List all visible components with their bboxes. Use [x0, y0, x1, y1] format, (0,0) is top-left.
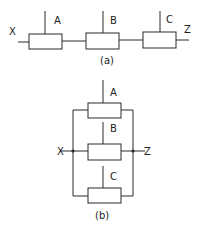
junction-x: [71, 149, 74, 152]
component-a-box: [88, 103, 121, 118]
input-label-x: X: [57, 146, 64, 157]
component-c-box: [88, 188, 121, 203]
component-b-label: B: [110, 123, 117, 134]
caption-a: (a): [100, 55, 114, 66]
caption-b: (b): [95, 210, 109, 221]
component-c-label: C: [166, 14, 173, 25]
component-b-label: B: [110, 15, 117, 26]
output-label-z: Z: [144, 146, 151, 157]
input-label-x: X: [9, 26, 16, 37]
component-c-box: [143, 32, 176, 48]
component-a-label: A: [54, 15, 61, 26]
junction-z: [131, 149, 134, 152]
component-b-box: [88, 144, 121, 160]
component-a-label: A: [110, 87, 117, 98]
component-c-label: C: [110, 171, 117, 182]
diagram-canvas: X A B C Z (a) X A B C Z (b): [0, 0, 201, 225]
series-diagram: X A B C Z (a): [9, 11, 191, 66]
component-a-box: [29, 34, 62, 49]
parallel-diagram: X A B C Z (b): [57, 80, 151, 221]
output-label-z: Z: [184, 24, 191, 35]
component-b-box: [86, 33, 119, 49]
